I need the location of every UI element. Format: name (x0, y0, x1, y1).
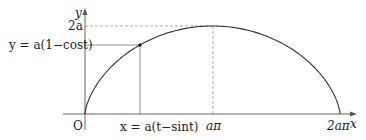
x-tick-2api: 2aπ (326, 119, 351, 133)
x-axis-arrow-icon (350, 112, 357, 117)
curve-point (138, 43, 142, 47)
origin-label: O (73, 119, 83, 133)
y-axis-label: y (74, 6, 82, 20)
y-axis-arrow-icon (83, 8, 88, 15)
cycloid-curve (85, 26, 340, 114)
x-axis-label: x (350, 117, 357, 131)
y-equation-label: y = a(1−cost) (8, 38, 93, 52)
x-equation-label: x = a(t−sint) (120, 120, 198, 134)
cycloid-diagram: y 2a y = a(1−cost) O x = a(t−sint) aπ 2a… (0, 0, 366, 140)
x-tick-api: aπ (206, 119, 222, 133)
y-tick-2a: 2a (68, 19, 83, 33)
